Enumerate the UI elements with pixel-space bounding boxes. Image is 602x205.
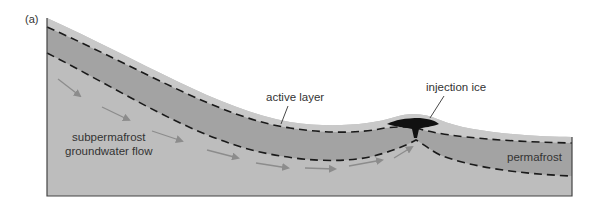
subpermafrost-label-line1: subpermafrost xyxy=(72,131,146,143)
permafrost-cross-section-diagram: (a) active layer injection ice subpermaf… xyxy=(0,0,602,205)
injection-ice-leader xyxy=(430,96,444,118)
permafrost-label: permafrost xyxy=(507,151,563,163)
subpermafrost-label-line2: groundwater flow xyxy=(65,145,153,157)
active-layer-label: active layer xyxy=(266,91,324,103)
subpermafrost-zone xyxy=(47,18,572,196)
injection-ice-label: injection ice xyxy=(426,81,486,93)
panel-label: (a) xyxy=(25,13,38,25)
